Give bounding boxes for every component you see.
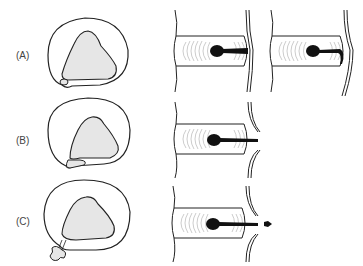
disc-herniation-diagram	[0, 0, 363, 266]
transverse-disc-c	[44, 180, 130, 261]
sagittal-disc-a1	[174, 10, 253, 92]
sagittal-disc-c	[172, 186, 272, 262]
sagittal-disc-a2	[270, 10, 353, 96]
transverse-disc-b	[48, 98, 130, 168]
transverse-disc-a	[48, 18, 128, 87]
sequestered-fragment	[264, 221, 272, 227]
sagittal-disc-b	[174, 102, 260, 178]
